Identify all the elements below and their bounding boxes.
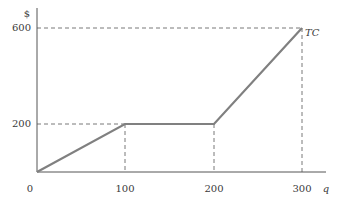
y-tick-200: 200 <box>12 118 31 129</box>
x-tick-300: 300 <box>292 183 311 194</box>
tc-label: TC <box>305 27 320 38</box>
x-tick-100: 100 <box>115 183 134 194</box>
x-tick-0: 0 <box>27 183 33 194</box>
y-axis-label: $ <box>24 8 30 19</box>
tc-curve <box>37 28 302 172</box>
x-tick-200: 200 <box>204 183 223 194</box>
total-cost-chart: $ 600 200 0 100 200 300 q TC <box>0 0 344 201</box>
x-axis-label: q <box>323 183 329 194</box>
y-tick-600: 600 <box>12 22 31 33</box>
